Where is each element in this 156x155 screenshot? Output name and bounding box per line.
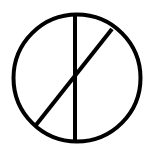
symbol-diagram bbox=[0, 0, 156, 155]
